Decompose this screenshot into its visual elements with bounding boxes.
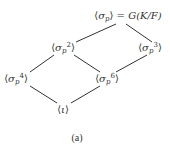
node-top-group: ⟨σp⟩ = G(K/F): [94, 10, 161, 25]
angle-close: ⟩: [158, 42, 162, 53]
node-base: σ: [98, 10, 105, 21]
node-base: σ: [99, 73, 106, 84]
node-sigma-p-sixth: ⟨σp6⟩: [95, 70, 119, 88]
node-base: σ: [8, 73, 15, 84]
edge-top-sp2: [76, 24, 116, 42]
angle-close: ⟩: [24, 73, 28, 84]
angle-close: ⟩: [115, 73, 119, 84]
edge-sp6-iota: [71, 86, 100, 103]
node-sigma-p-fourth: ⟨σp4⟩: [4, 70, 28, 88]
edge-sp4-iota: [30, 86, 57, 103]
angle-close: ⟩: [65, 104, 69, 115]
figure-caption: (a): [71, 132, 82, 143]
edge-sp2-sp4: [30, 55, 54, 72]
subgroup-lattice-diagram: ⟨σp⟩ = G(K/F) ⟨σp2⟩ ⟨σp3⟩ ⟨σp4⟩ ⟨σp6⟩ ⟨ι…: [0, 0, 170, 152]
node-equation-suffix: = G(K/F): [113, 10, 161, 21]
angle-close: ⟩: [71, 42, 75, 53]
node-sigma-p-squared: ⟨σp2⟩: [51, 39, 75, 57]
edge-sp3-sp6: [116, 55, 147, 72]
node-base: σ: [142, 42, 149, 53]
node-identity: ⟨ι⟩: [57, 104, 69, 116]
node-sigma-p-cubed: ⟨σp3⟩: [138, 39, 162, 57]
node-base: σ: [55, 42, 62, 53]
